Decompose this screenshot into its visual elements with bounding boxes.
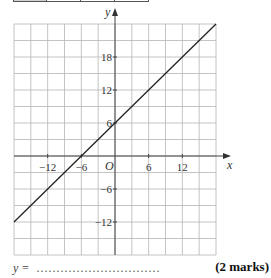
answer-prompt: y = bbox=[13, 261, 29, 275]
axes: xy bbox=[14, 5, 233, 255]
x-axis-label: x bbox=[226, 158, 233, 172]
x-tick-label: 6 bbox=[146, 161, 152, 173]
origin-label: O bbox=[105, 159, 114, 173]
x-tick-label: 12 bbox=[177, 161, 188, 173]
answer-line: y = ............................... (2 m… bbox=[13, 261, 271, 276]
x-tick-label: −12 bbox=[39, 161, 56, 173]
answer-blank[interactable]: ............................... bbox=[36, 261, 160, 275]
y-tick-label: 18 bbox=[101, 51, 113, 63]
y-tick-label: −6 bbox=[100, 183, 112, 195]
y-tick-label: −12 bbox=[95, 216, 112, 228]
y-tick-label: 12 bbox=[101, 84, 112, 96]
coordinate-grid: xy −12−661218126−6−12O bbox=[0, 0, 271, 258]
y-axis-arrow-icon bbox=[112, 8, 118, 16]
y-axis-label: y bbox=[104, 5, 111, 19]
marks-label: (2 marks) bbox=[215, 259, 269, 275]
x-tick-label: −6 bbox=[75, 161, 87, 173]
